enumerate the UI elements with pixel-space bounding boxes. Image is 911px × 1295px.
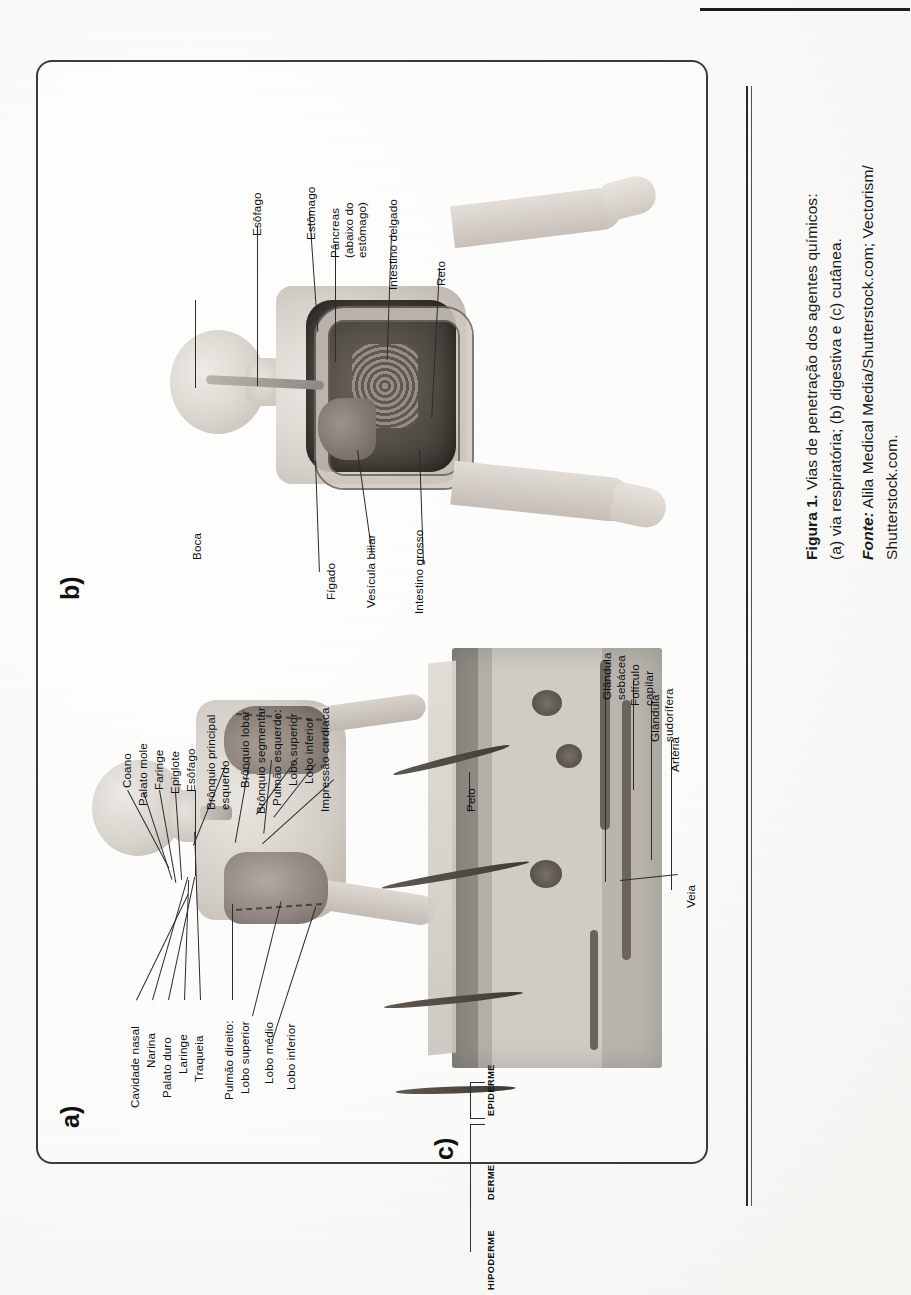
caption-source-text: Alila Medical Media/Shutterstock.com; Ve… [859, 165, 876, 508]
bracket-epiderme [470, 1082, 471, 1118]
label-glandula-sudorifera: Glândula sudorífera [648, 688, 675, 742]
panel-c-letter: c) [430, 1138, 459, 1160]
caption-source-label: Fonte: [859, 512, 876, 560]
leader-boca [195, 300, 196, 388]
label-reto: Reto [434, 261, 448, 286]
layer-label-derme: DERME [486, 1164, 497, 1200]
label-intestino-delgado: Intestino delgado [386, 199, 400, 290]
label-lobo-inferior-direito: Lobo inferior [284, 1024, 298, 1090]
label-faringe: Faringe [152, 750, 166, 790]
caption-main-text: Vias de penetração dos agentes químicos: [803, 193, 820, 490]
caption-line-2: (a) via respiratória; (b) digestiva e (c… [824, 140, 848, 560]
panel-c-sebaceous-gland-artwork-2 [530, 860, 562, 888]
label-pulmao-direito: Pulmão direito: [222, 1020, 236, 1100]
label-impressao-cardiaca: Impressão cardíaca [318, 707, 332, 812]
label-bronquio-segmentar: Brônquio segmentar [254, 707, 268, 814]
label-cavidade-nasal: Cavidade nasal [128, 1026, 142, 1108]
page-margin-rule-secondary [751, 86, 752, 1206]
layer-label-epiderme: EPIDERME [486, 1064, 497, 1116]
label-veia: Veia [684, 885, 698, 908]
bracket-epiderme-cap-top [470, 1082, 485, 1083]
leader-glandula-sebacea [605, 676, 606, 882]
label-estomago: Estômago [304, 187, 318, 240]
label-vesicula-biliar: Vesícula biliar [364, 534, 378, 608]
caption-source-line-1: Fonte: Alila Medical Media/Shutterstock.… [856, 140, 880, 560]
layer-label-hipoderme: HIPODERME [486, 1230, 497, 1290]
panel-c-sebaceous-gland-artwork [532, 690, 562, 716]
label-palato-duro: Palato duro [160, 1037, 174, 1098]
leader-pancreas [335, 244, 336, 362]
panel-c-vein-artwork [622, 700, 631, 960]
label-pancreas: Pâncreas (abaixo do estômago) [328, 202, 369, 258]
panel-c-capillary-artwork [590, 930, 598, 1050]
caption-line-1: Figura 1. Vias de penetração dos agentes… [800, 140, 824, 560]
caption-spacer [849, 140, 856, 560]
label-lobo-inferior-esquerdo: Lobo inferior [302, 718, 316, 784]
leader-esofago-a [195, 790, 196, 876]
label-bronquio-lobar: Brônquio lobar [238, 710, 252, 788]
label-figado: Fígado [324, 563, 338, 600]
label-boca: Boca [190, 533, 204, 560]
bracket-derme-cap-top [470, 1124, 485, 1125]
label-esofago-b: Esôfago [250, 192, 264, 236]
caption-source-line-2: Shutterstock.com. [880, 140, 904, 560]
label-glandula-sebacea: Glândula sebácea [600, 652, 627, 700]
label-lobo-superior-direito: Lobo superior [238, 1021, 252, 1094]
label-pulmao-esquerdo: Pulmão esquerdo: [270, 710, 284, 807]
label-esofago-a: Esôfago [184, 748, 198, 792]
leader-esofago-b [257, 226, 258, 386]
page-margin-rule [746, 86, 748, 1206]
label-lobo-superior-esquerdo: Lobo superior [286, 713, 300, 786]
figure-caption: Figura 1. Vias de penetração dos agentes… [800, 140, 905, 560]
label-traqueia: Traqueia [192, 1035, 206, 1082]
label-pelo: Pelo [464, 788, 478, 812]
page-header-rule [700, 8, 910, 11]
label-arteria: Artéria [668, 737, 682, 772]
panel-c-sweat-gland-artwork [556, 744, 582, 768]
panel-b-letter: b) [56, 576, 85, 600]
leader-lobo-superior-dir [232, 904, 233, 1000]
bracket-derme [470, 1124, 471, 1252]
panel-b-liver-artwork [318, 398, 376, 460]
panel-a-letter: a) [56, 1106, 85, 1128]
caption-figure-number: Figura 1. [803, 495, 820, 561]
label-coano: Coano [120, 753, 134, 788]
label-narina: Narina [144, 1033, 158, 1068]
label-palato-mole: Palato mole [136, 743, 150, 806]
label-bronquio-principal-esquerdo: Brônquio principal esquerdo [204, 714, 231, 810]
label-lobo-medio: Lobo médio [262, 1022, 276, 1084]
bracket-epiderme-cap-bottom [470, 1118, 485, 1119]
label-intestino-grosso: Intestino grosso [412, 530, 426, 614]
label-epiglote: Epiglote [168, 751, 182, 794]
label-laringe: Laringe [176, 1034, 190, 1074]
